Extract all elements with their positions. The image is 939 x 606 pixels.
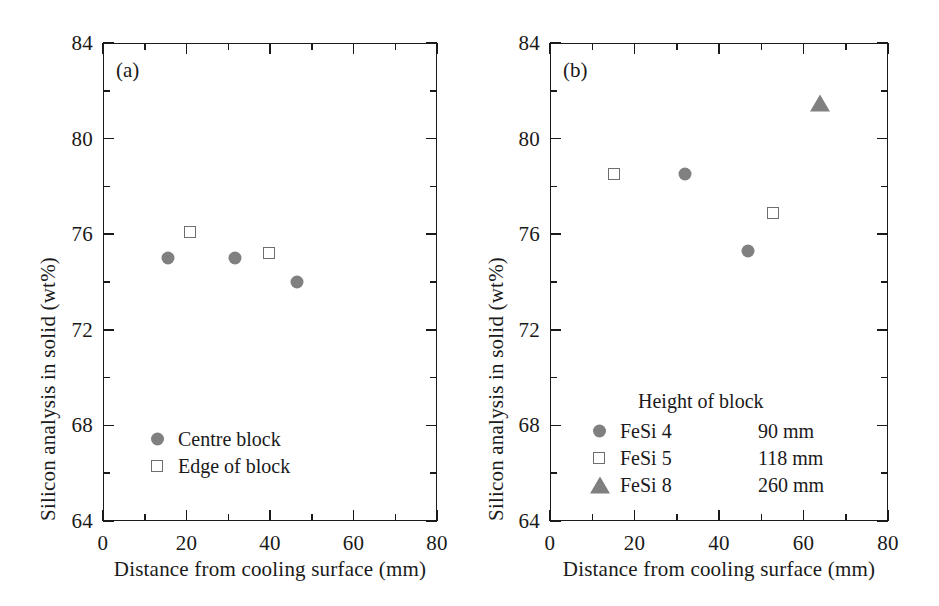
y-tick [550, 90, 557, 92]
y-tick [430, 281, 437, 283]
y-tick [881, 90, 888, 92]
y-tick [103, 138, 114, 140]
x-tick [592, 514, 594, 521]
x-tick [549, 510, 551, 521]
y-tick [877, 138, 888, 140]
y-tick [103, 425, 114, 427]
y-tick-label: 80 [41, 126, 93, 151]
x-tick [887, 510, 889, 521]
x-tick-label: 20 [176, 531, 198, 556]
data-point [678, 168, 691, 181]
y-tick [103, 520, 114, 522]
y-tick [550, 138, 561, 140]
legend-item-value: 118 mm [758, 446, 823, 469]
x-tick [102, 43, 104, 54]
x-tick [186, 510, 188, 521]
x-tick [436, 43, 438, 54]
y-tick [103, 329, 114, 331]
figure-scatter-panels: (a) 646872768084020406080 Distance from … [0, 0, 939, 606]
x-tick [102, 510, 104, 521]
y-tick [550, 233, 561, 235]
legend-item-label: FeSi 4 [620, 419, 672, 442]
x-tick [845, 514, 847, 521]
y-axis-title-a: Silicon analysis in solid (wt%) [36, 257, 61, 521]
x-tick [395, 43, 397, 50]
legend-item: FeSi 5 118 mm [590, 444, 764, 471]
legend-item-label: FeSi 8 [620, 473, 672, 496]
x-tick [228, 43, 230, 50]
y-tick [550, 425, 561, 427]
open-square-icon [148, 456, 168, 476]
y-tick [550, 186, 557, 188]
y-tick [550, 377, 557, 379]
y-tick [426, 425, 437, 427]
x-tick [676, 514, 678, 521]
x-tick-label: 60 [793, 531, 815, 556]
y-tick [550, 472, 557, 474]
filled-triangle-icon [590, 475, 610, 495]
x-tick [887, 43, 889, 54]
x-tick [634, 510, 636, 521]
x-tick [436, 510, 438, 521]
x-tick [592, 43, 594, 50]
y-tick [550, 329, 561, 331]
y-tick-label: 76 [488, 222, 540, 247]
y-tick [881, 186, 888, 188]
y-axis-title-b: Silicon analysis in solid (wt%) [484, 257, 509, 521]
y-tick-label: 84 [488, 31, 540, 56]
x-tick [395, 514, 397, 521]
y-tick [881, 281, 888, 283]
filled-circle-icon [590, 421, 610, 441]
y-tick [550, 42, 561, 44]
y-tick [103, 90, 110, 92]
data-point [767, 207, 779, 219]
legend-item-label: FeSi 5 [620, 446, 672, 469]
legend-item: FeSi 8 260 mm [590, 471, 764, 498]
y-tick [881, 472, 888, 474]
y-tick [103, 233, 114, 235]
open-square-icon [590, 448, 610, 468]
x-tick [186, 43, 188, 54]
y-tick [877, 329, 888, 331]
panel-a: (a) 646872768084020406080 Distance from … [0, 0, 469, 606]
x-tick [269, 510, 271, 521]
x-tick-label: 60 [343, 531, 365, 556]
y-tick [881, 377, 888, 379]
y-tick [550, 281, 557, 283]
x-tick-label: 40 [259, 531, 281, 556]
legend-title-b: Height of block [590, 390, 764, 417]
y-tick [103, 42, 114, 44]
y-tick [430, 186, 437, 188]
y-tick [426, 138, 437, 140]
y-tick [426, 233, 437, 235]
x-tick [634, 43, 636, 54]
y-tick [103, 472, 110, 474]
y-tick [877, 425, 888, 427]
x-tick [761, 514, 763, 521]
x-tick-label: 80 [426, 531, 448, 556]
panel-b: (b) 646872768084020406080 Distance from … [470, 0, 939, 606]
legend-item-label: Edge of block [178, 454, 290, 477]
legend-b: Height of block FeSi 4 90 mm FeSi 5 118 … [590, 390, 764, 498]
x-axis-title-b: Distance from cooling surface (mm) [550, 557, 888, 582]
filled-circle-icon [148, 429, 168, 449]
x-tick-label: 0 [98, 531, 109, 556]
x-tick [353, 510, 355, 521]
x-tick [311, 43, 313, 50]
x-tick [803, 43, 805, 54]
y-tick-label: 80 [488, 126, 540, 151]
x-tick [718, 43, 720, 54]
y-tick [103, 186, 110, 188]
x-tick [144, 43, 146, 50]
x-tick [803, 510, 805, 521]
data-point [228, 252, 241, 265]
x-tick [353, 43, 355, 54]
x-tick [269, 43, 271, 54]
x-tick-label: 20 [624, 531, 646, 556]
legend-item: FeSi 4 90 mm [590, 417, 764, 444]
y-tick-label: 76 [41, 222, 93, 247]
data-point [291, 276, 304, 289]
x-tick-label: 80 [877, 531, 899, 556]
data-point [810, 94, 830, 111]
y-tick-label: 84 [41, 31, 93, 56]
